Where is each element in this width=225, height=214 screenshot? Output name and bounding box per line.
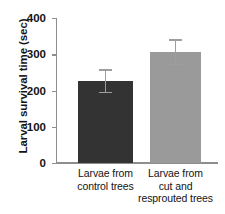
error-bar-line <box>105 69 106 93</box>
x-tick-label-line: Larvae from <box>64 167 147 180</box>
x-tick-label-line: resprouted trees <box>136 192 215 205</box>
plot-area: 0 100 200 300 400 Larvae from <box>56 18 218 163</box>
y-tick-4: 400 <box>52 18 56 19</box>
y-tick-2: 200 <box>52 91 56 92</box>
error-bar-cap-bottom <box>99 92 112 94</box>
y-tick-label-3: 300 <box>27 48 46 60</box>
error-bar-cap-bottom <box>169 64 182 66</box>
y-tick-label-4: 400 <box>27 12 46 24</box>
y-tick-1: 100 <box>52 127 56 128</box>
x-tick-label-cut-resprouted-trees: Larvae from cut and resprouted trees <box>136 167 215 205</box>
error-bar-cap-top <box>169 39 182 41</box>
y-tick-label-1: 100 <box>27 121 46 133</box>
error-bar-control-trees <box>78 69 133 93</box>
y-tick-3: 300 <box>52 54 56 55</box>
x-tick-label-line: Larvae from <box>136 167 215 180</box>
x-tick-label-line: control trees <box>64 180 147 193</box>
bar-cut-resprouted-trees <box>150 52 201 163</box>
bar-chart-figure: Larval survival time (sec) 0 100 200 300… <box>0 0 225 214</box>
error-bar-line <box>175 39 176 65</box>
y-axis-line <box>56 18 57 163</box>
x-tick-label-line: cut and <box>136 180 215 193</box>
y-tick-label-2: 200 <box>27 85 46 97</box>
y-tick-label-0: 0 <box>40 157 46 169</box>
error-bar-cap-top <box>99 69 112 71</box>
bar-control-trees <box>78 81 133 163</box>
error-bar-cut-resprouted-trees <box>150 39 201 65</box>
y-tick-0: 0 <box>52 163 56 164</box>
x-tick-label-control-trees: Larvae from control trees <box>64 167 147 192</box>
